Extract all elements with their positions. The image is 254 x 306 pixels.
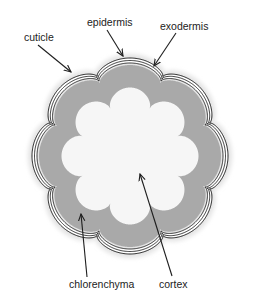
epidermis-label: epidermis (87, 16, 133, 28)
epidermis-arrow (107, 30, 123, 56)
cuticle-arrow (38, 45, 71, 72)
cortex-label: cortex (159, 278, 188, 290)
cuticle-label: cuticle (24, 31, 54, 43)
label-cuticle: cuticle (24, 31, 71, 72)
label-exodermis: exodermis (154, 20, 208, 66)
cortex-region (62, 88, 199, 225)
label-epidermis: epidermis (87, 16, 133, 56)
exodermis-label: exodermis (160, 20, 208, 32)
stem-shape (28, 54, 232, 258)
stem-cross-section-diagram: cuticle epidermis exodermis chlorenchyma… (0, 0, 254, 306)
chlorenchyma-label: chlorenchyma (69, 278, 135, 290)
exodermis-arrow (154, 33, 176, 66)
